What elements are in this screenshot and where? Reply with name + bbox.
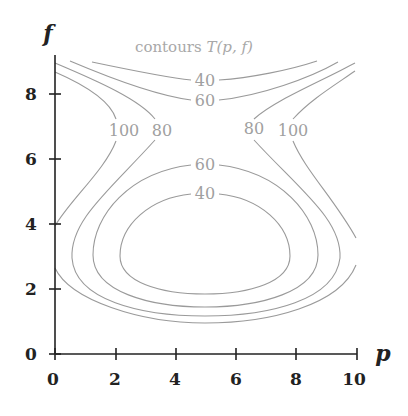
contour-label: 80 [152, 121, 172, 140]
y-tick-label: 4 [25, 214, 37, 234]
y-tick-label: 0 [25, 344, 37, 364]
contour-label: 60 [195, 91, 215, 110]
x-tick-label: 4 [169, 369, 181, 389]
contour-label: 60 [195, 155, 215, 174]
contour-labels: 40 60 100 80 80 100 60 40 [109, 71, 309, 203]
contour-label: 100 [109, 121, 140, 140]
contour-label: 80 [244, 119, 264, 138]
y-axis-label: f [41, 20, 56, 46]
contour-chart: contours T(p, f) 40 60 100 80 80 100 60 … [0, 0, 408, 416]
y-tick-label: 8 [25, 84, 37, 104]
x-tick-label: 2 [109, 369, 121, 389]
x-tick-label: 10 [342, 369, 366, 389]
chart-title: contours T(p, f) [135, 38, 253, 56]
x-tick-labels: 0 2 4 6 8 10 [47, 369, 366, 389]
contour-40-loop [120, 194, 290, 294]
y-tick-label: 2 [25, 279, 37, 299]
contour-label: 40 [195, 71, 215, 90]
contour-label: 40 [195, 184, 215, 203]
contour-label: 100 [278, 121, 309, 140]
y-tick-labels: 0 2 4 6 8 [25, 84, 37, 364]
x-tick-label: 6 [230, 369, 242, 389]
x-axis-label: p [375, 340, 391, 366]
y-tick-label: 6 [25, 149, 37, 169]
x-tick-label: 8 [290, 369, 302, 389]
x-tick-label: 0 [47, 369, 59, 389]
